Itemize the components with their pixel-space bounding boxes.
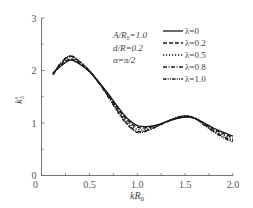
legend: λ=0λ=0.2λ=0.5λ=0.8λ=1.0: [163, 26, 206, 84]
x-tick-label: 0: [33, 179, 38, 190]
line-chart: 0123 00.51.01.52.0 kR0 k3s A/R₀=1.0 d/R=…: [0, 0, 253, 208]
curve-lambda-3: [53, 56, 233, 141]
legend-label: λ=1.0: [185, 74, 206, 84]
svg-text:kR0: kR0: [130, 190, 145, 203]
x-tick-label: 0.5: [83, 179, 96, 190]
legend-label: λ=0: [185, 26, 199, 36]
x-tick-label: 2.0: [227, 179, 240, 190]
y-ticks: 0123: [32, 13, 45, 182]
y-tick-label: 3: [32, 13, 37, 24]
data-curves: [53, 56, 233, 142]
x-tick-label: 1.5: [179, 179, 192, 190]
param-d-r: d/R=0.2: [113, 43, 143, 53]
legend-label: λ=0.5: [185, 50, 206, 60]
legend-label: λ=0.2: [185, 38, 206, 48]
curve-lambda-4: [53, 56, 233, 142]
x-tick-label: 1.0: [131, 179, 144, 190]
parameter-annotations: A/R₀=1.0 d/R=0.2 α=π/2: [112, 30, 147, 65]
y-tick-label: 2: [32, 65, 37, 76]
svg-text:k3s: k3s: [13, 96, 25, 103]
param-a-r0: A/R₀=1.0: [112, 30, 147, 40]
param-alpha: α=π/2: [113, 55, 136, 65]
x-axis-label: kR0: [130, 190, 145, 203]
y-tick-label: 1: [32, 118, 37, 129]
y-axis-label: k3s: [13, 96, 25, 103]
legend-label: λ=0.8: [185, 62, 206, 72]
